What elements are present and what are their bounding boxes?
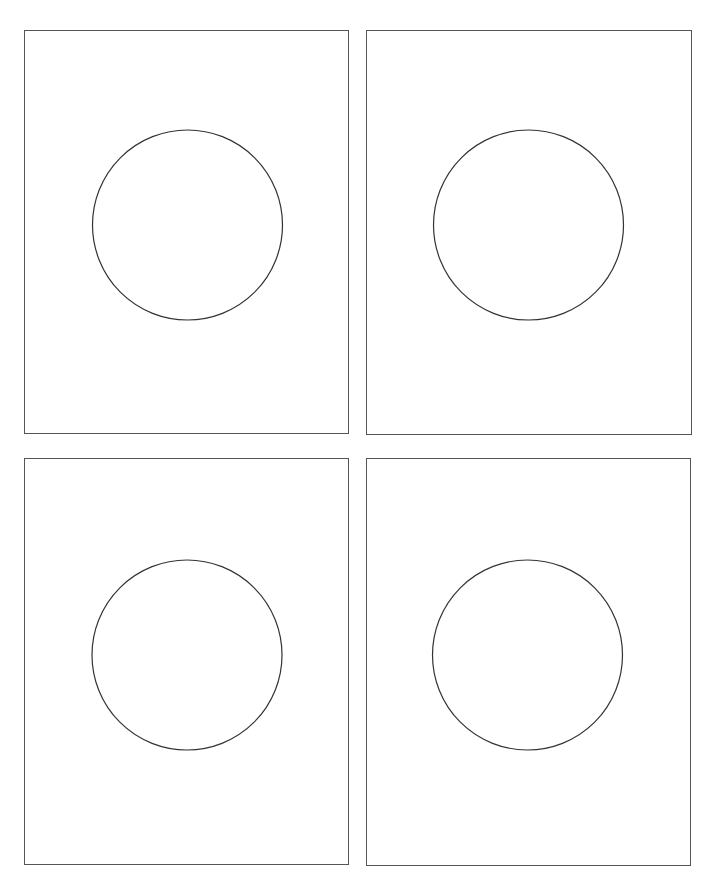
panel-bottom-left (24, 458, 349, 865)
circle-outline (92, 560, 282, 750)
panel-top-left (24, 30, 349, 434)
panel-bottom-right (366, 458, 691, 866)
circle-shape (25, 31, 350, 435)
circle-shape (367, 31, 693, 436)
cropped-header-artifact (0, 0, 712, 6)
panel-top-right (366, 30, 692, 435)
circle-outline (93, 130, 283, 320)
circle-shape (25, 459, 350, 866)
circle-outline (434, 130, 624, 320)
circle-outline (433, 560, 623, 750)
circle-shape (367, 459, 692, 867)
